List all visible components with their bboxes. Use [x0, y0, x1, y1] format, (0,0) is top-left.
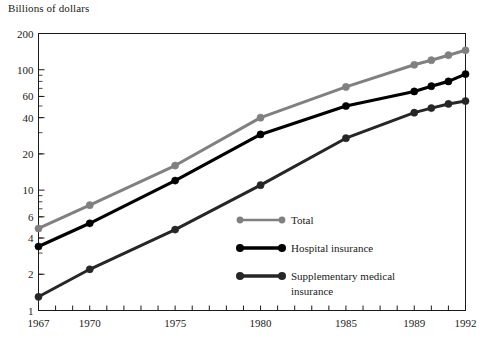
- y-tick-label: 20: [23, 148, 35, 160]
- y-tick-label: 1: [28, 305, 34, 317]
- y-tick-label: 200: [17, 28, 34, 40]
- data-point-marker: [86, 202, 93, 209]
- x-tick-label: 1970: [79, 317, 102, 329]
- plot-frame: [39, 34, 466, 311]
- legend-item[interactable]: Hospital insurance: [236, 242, 373, 254]
- data-point-marker: [86, 266, 93, 273]
- y-tick-label: 60: [23, 90, 35, 102]
- x-axis-ticks: 1967197019751980198519891992: [28, 306, 477, 329]
- data-point-marker: [257, 114, 264, 121]
- data-point-marker: [428, 83, 435, 90]
- series-hospital-insurance: [35, 71, 469, 251]
- legend-label: Total: [291, 214, 313, 226]
- x-tick-label: 1980: [250, 317, 273, 329]
- y-tick-label: 10: [23, 184, 35, 196]
- data-point-marker: [462, 71, 469, 78]
- data-point-marker: [172, 226, 179, 233]
- data-point-marker: [445, 100, 452, 107]
- legend-swatch-marker-end: [279, 217, 286, 224]
- y-tick-label: 6: [28, 211, 34, 223]
- data-point-marker: [172, 162, 179, 169]
- x-tick-label: 1985: [335, 317, 358, 329]
- data-point-marker: [35, 225, 42, 232]
- x-tick-label: 1992: [455, 317, 477, 329]
- y-axis-ticks: 124610204060100200: [17, 28, 45, 317]
- data-point-marker: [411, 61, 418, 68]
- legend-item[interactable]: Total: [237, 214, 314, 226]
- chart-container: Billions of dollars 124610204060100200 1…: [0, 0, 485, 338]
- legend-swatch-marker-start: [236, 244, 244, 252]
- line-chart: 124610204060100200 196719701975198019851…: [0, 0, 485, 338]
- legend-label: Supplementary medical: [291, 270, 395, 282]
- data-point-marker: [445, 52, 452, 59]
- legend-label: Hospital insurance: [291, 242, 373, 254]
- data-point-marker: [172, 177, 179, 184]
- data-point-marker: [411, 109, 418, 116]
- chart-legend: TotalHospital insuranceSupplementary med…: [236, 214, 395, 297]
- y-tick-label: 4: [28, 232, 34, 244]
- data-point-marker: [35, 293, 42, 300]
- legend-swatch-marker-start: [237, 217, 244, 224]
- data-point-marker: [86, 220, 93, 227]
- legend-swatch-marker-end: [278, 244, 286, 252]
- data-series-group: [35, 47, 469, 301]
- legend-swatch-marker-end: [278, 272, 286, 280]
- data-point-marker: [428, 105, 435, 112]
- data-point-marker: [411, 88, 418, 95]
- legend-swatch-marker-start: [236, 272, 244, 280]
- data-point-marker: [35, 243, 42, 250]
- data-point-marker: [342, 102, 349, 109]
- data-point-marker: [257, 182, 264, 189]
- data-point-marker: [445, 78, 452, 85]
- data-point-marker: [462, 47, 469, 54]
- data-point-marker: [257, 131, 264, 138]
- legend-label: insurance: [291, 285, 333, 297]
- y-tick-label: 40: [23, 112, 35, 124]
- x-tick-label: 1967: [28, 317, 51, 329]
- x-tick-label: 1989: [403, 317, 426, 329]
- y-tick-label: 100: [17, 64, 34, 76]
- legend-item[interactable]: Supplementary medicalinsurance: [236, 270, 395, 297]
- x-tick-label: 1975: [164, 317, 187, 329]
- data-point-marker: [462, 97, 469, 104]
- y-tick-label: 2: [28, 268, 34, 280]
- data-point-marker: [428, 57, 435, 64]
- data-point-marker: [342, 83, 349, 90]
- data-point-marker: [342, 135, 349, 142]
